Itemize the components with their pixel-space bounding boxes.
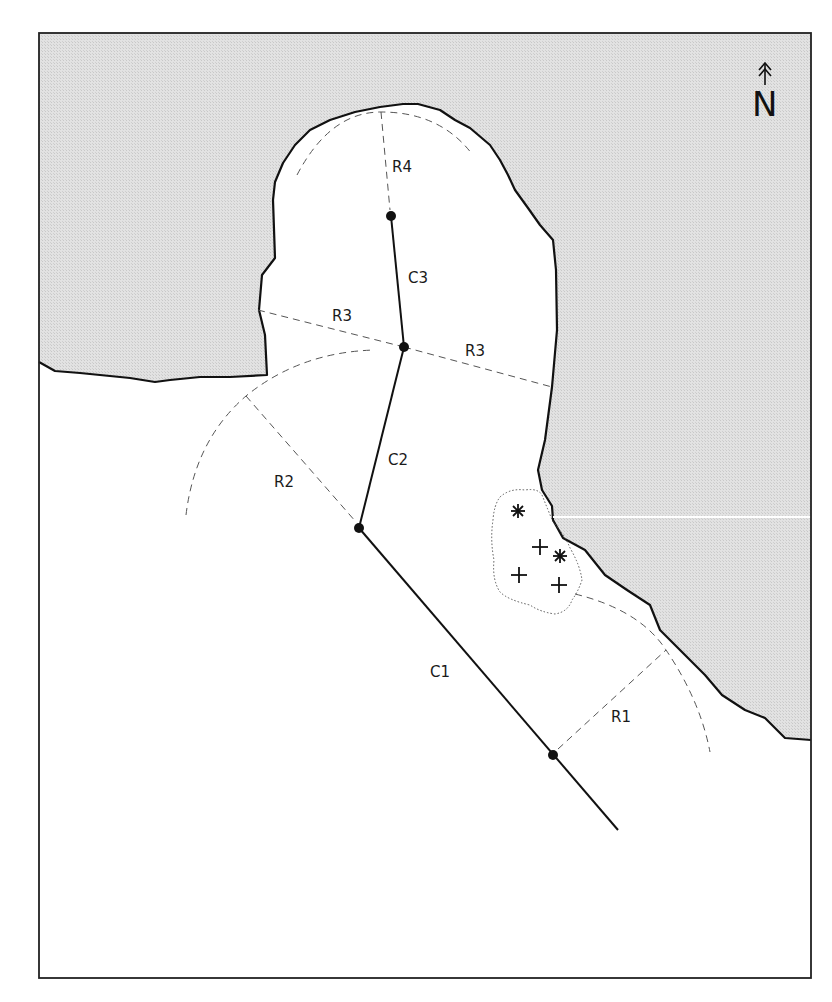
label-r3-right: R3 <box>465 342 485 360</box>
c3-segment <box>391 216 404 347</box>
label-c2: C2 <box>388 451 408 469</box>
label-r3-left: R3 <box>332 307 352 325</box>
plus-icon <box>551 577 567 593</box>
centerline-nodes <box>354 211 558 760</box>
label-r4: R4 <box>392 158 412 176</box>
asterisk-icon <box>553 549 567 563</box>
land-area <box>39 33 811 740</box>
node-c1-end <box>548 750 558 760</box>
c2-segment <box>359 347 404 528</box>
r4-line <box>381 112 390 210</box>
label-c1: C1 <box>430 663 450 681</box>
label-r1: R1 <box>611 708 631 726</box>
r3-left-line <box>258 310 404 347</box>
node-c1-c2 <box>354 523 364 533</box>
node-c2-c3 <box>399 342 409 352</box>
c1-segment <box>359 528 618 830</box>
bay-map: R4 C3 R3 R3 C2 R2 C1 R1 N <box>0 0 832 1002</box>
r2-line <box>246 396 356 522</box>
label-r2: R2 <box>274 473 294 491</box>
plus-icon <box>511 567 527 583</box>
north-label: N <box>752 84 777 124</box>
node-c3-end <box>386 211 396 221</box>
r1-line <box>558 650 666 749</box>
asterisk-icon <box>511 504 525 518</box>
label-c3: C3 <box>408 269 428 287</box>
plus-icon <box>532 539 548 555</box>
